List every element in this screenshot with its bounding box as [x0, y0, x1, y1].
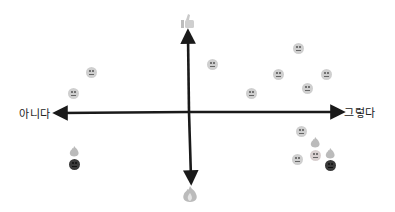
- quadrant-diagram: 아니다 그렇다: [0, 0, 395, 212]
- neutral-face-icon: [302, 83, 313, 94]
- neutral-face-icon: [68, 88, 79, 99]
- frown-face-icon: [296, 126, 307, 137]
- fire-icon: [311, 137, 320, 147]
- slight-smile-face-icon: [246, 88, 257, 99]
- fire-icon: [326, 148, 335, 158]
- slight-smile-face-icon: [321, 69, 332, 80]
- neutral-face-icon: [273, 69, 284, 80]
- dark-face-icon: [325, 160, 336, 171]
- positive-axis-label: 그렇다: [344, 104, 376, 120]
- slight-smile-face-icon: [86, 67, 97, 78]
- frown-face-icon: [207, 59, 218, 70]
- fire-icon: [70, 146, 79, 156]
- fire-icon: [183, 186, 197, 202]
- negative-axis-label: 아니다: [19, 105, 51, 121]
- horizontal-axis: [60, 112, 189, 113]
- vertical-axis: [188, 36, 189, 112]
- axes: [0, 0, 395, 212]
- fire-face-icon: [310, 150, 321, 161]
- angry-face-icon: [292, 154, 303, 165]
- neutral-face-icon: [293, 43, 304, 54]
- thumbs-up-icon: [181, 14, 194, 28]
- dark-face-icon: [69, 159, 80, 170]
